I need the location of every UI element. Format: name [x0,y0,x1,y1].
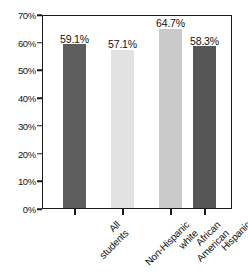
bar-chart: 70% 60% 50% 40% 30% 20% 10% 0% [0,0,248,280]
bar-hispanic [193,46,216,208]
bar-value-label: 59.1% [47,33,102,45]
bar-value-label: 57.1% [95,38,150,50]
x-axis-tick-mark [170,209,172,215]
x-axis-tick-mark [74,209,76,215]
y-axis-tick-label: 50% [0,65,36,76]
y-axis-tick-label: 70% [0,10,36,21]
y-axis-tick-label: 60% [0,37,36,48]
x-axis-tick-mark [204,209,206,215]
bar-value-label: 64.7% [143,17,198,29]
x-axis-tick-mark [122,209,124,215]
y-axis-tick-label: 0% [0,204,36,215]
y-axis-tick-label: 20% [0,148,36,159]
bar-african-american [159,29,182,208]
bar-non-hispanic-white [111,50,134,208]
bar-value-label: 58.3% [177,35,232,47]
y-axis-tick-label: 10% [0,176,36,187]
y-axis-tick-label: 30% [0,120,36,131]
y-axis-tick-label: 40% [0,93,36,104]
x-axis-category-label-all-students: All students [89,219,131,261]
bar-all-students [63,44,86,208]
